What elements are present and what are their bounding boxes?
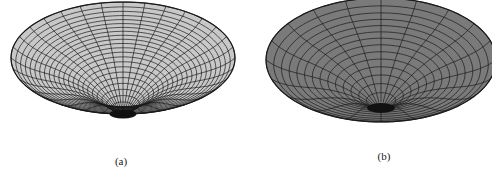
caption-b: (b): [364, 150, 404, 162]
caption-a: (a): [101, 155, 141, 167]
funnel-surface-mesh-a: [0, 0, 246, 179]
panel-b-surface-plot: (b): [246, 0, 492, 179]
panel-a-surface-plot: (a): [0, 0, 246, 179]
